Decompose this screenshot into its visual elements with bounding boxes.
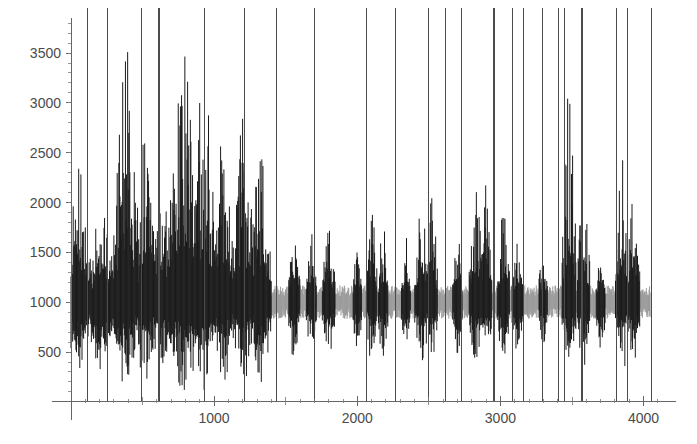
x-tick-label-3000: 3000: [485, 410, 516, 426]
y-tick-label-1500: 1500: [30, 244, 61, 260]
x-tick-label-2000: 2000: [342, 410, 373, 426]
y-tick-label-3000: 3000: [30, 95, 61, 111]
y-tick-label-1000: 1000: [30, 294, 61, 310]
chart-svg: 500100015002000250030003500 100020003000…: [0, 0, 697, 444]
x-tick-label-1000: 1000: [199, 410, 230, 426]
y-tick-label-2000: 2000: [30, 195, 61, 211]
y-tick-label-500: 500: [38, 344, 62, 360]
y-tick-label-2500: 2500: [30, 145, 61, 161]
y-tick-label-3500: 3500: [30, 45, 61, 61]
x-tick-label-4000: 4000: [628, 410, 659, 426]
chart-figure: 500100015002000250030003500 100020003000…: [0, 0, 697, 444]
